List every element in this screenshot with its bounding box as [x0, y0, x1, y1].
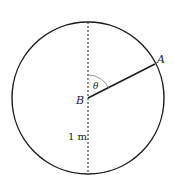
length-label: 1 m: [68, 131, 88, 142]
circle-diagram: A B θ 1 m: [0, 0, 175, 186]
point-label-A: A: [156, 53, 165, 66]
point-label-B: B: [75, 94, 84, 107]
angle-label-theta: θ: [93, 81, 99, 91]
diagram: A B θ 1 m: [0, 0, 175, 186]
